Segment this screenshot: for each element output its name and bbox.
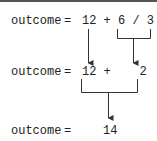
evaluation-arrows [0,0,157,141]
bracket-6-div-3 [118,29,151,39]
bracket-12-plus-2 [82,79,138,93]
